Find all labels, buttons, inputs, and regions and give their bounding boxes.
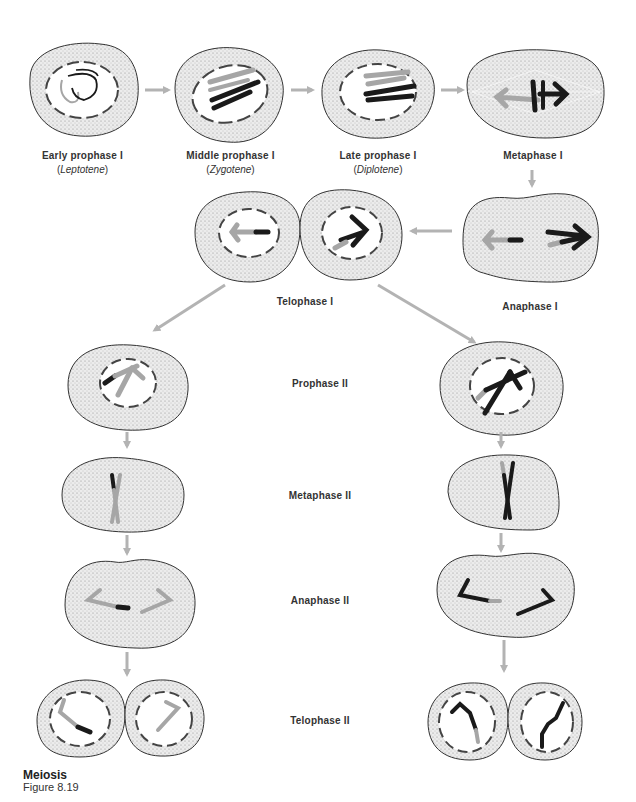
label-telophase-2: Telophase II (270, 715, 370, 726)
label-late-prophase-1: Late prophase I (318, 150, 438, 161)
meiosis-diagram: Early prophase I (Leptotene) Middle prop… (0, 0, 636, 802)
arrow-7 (378, 285, 474, 342)
label-metaphase-1: Metaphase I (478, 150, 588, 161)
cell-telophase-2-left (37, 680, 204, 757)
label-anaphase-2: Anaphase II (270, 595, 370, 606)
sublabel-diplotene: (Diplotene) (318, 164, 438, 175)
label-prophase-2: Prophase II (270, 378, 370, 389)
diagram-canvas (0, 0, 636, 802)
cell-metaphase-2-right (448, 455, 559, 530)
cell-prophase-2-left (68, 345, 188, 430)
label-telophase-1: Telophase I (250, 296, 360, 307)
cell-prophase-2-right (440, 342, 563, 435)
cell-anaphase-2-right (437, 553, 574, 637)
sublabel-leptotene: (Leptotene) (20, 164, 145, 175)
cell-metaphase-2-left (62, 458, 184, 533)
label-early-prophase-1: Early prophase I (20, 150, 145, 161)
cell-anaphase-1 (463, 194, 598, 282)
arrow-6 (155, 285, 225, 330)
cell-telophase-2-right (428, 683, 582, 760)
figure-number: Figure 8.19 (23, 781, 79, 793)
label-metaphase-2: Metaphase II (270, 490, 370, 501)
cell-early-prophase-1 (30, 43, 138, 136)
label-anaphase-1: Anaphase I (475, 301, 585, 312)
cell-metaphase-1 (467, 50, 604, 138)
cell-telophase-1 (195, 190, 402, 282)
label-middle-prophase-1: Middle prophase I (168, 150, 293, 161)
cell-middle-prophase-1 (175, 48, 283, 143)
cell-anaphase-2-left (65, 560, 195, 649)
figure-title: Meiosis (23, 768, 67, 782)
sublabel-zygotene: (Zygotene) (168, 164, 293, 175)
cell-late-prophase-1 (322, 50, 434, 138)
